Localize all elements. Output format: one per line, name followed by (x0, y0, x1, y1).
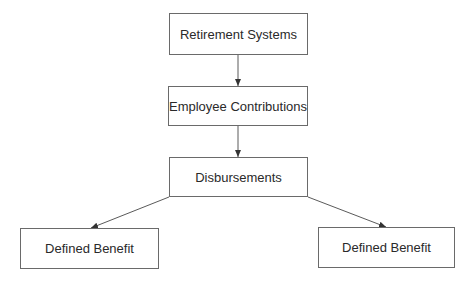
arrow-disbursements-to-defined-benefit-left (91, 197, 169, 228)
arrow-disbursements-to-defined-benefit-right (308, 197, 386, 227)
node-retirement-systems: Retirement Systems (169, 13, 308, 55)
node-label: Retirement Systems (180, 27, 297, 42)
node-defined-benefit-left: Defined Benefit (20, 228, 159, 269)
node-defined-benefit-right: Defined Benefit (318, 227, 455, 268)
node-employee-contributions: Employee Contributions (168, 86, 308, 126)
node-disbursements: Disbursements (169, 157, 308, 197)
node-label: Defined Benefit (342, 240, 431, 255)
node-label: Defined Benefit (45, 241, 134, 256)
node-label: Employee Contributions (169, 99, 307, 114)
node-label: Disbursements (195, 170, 282, 185)
